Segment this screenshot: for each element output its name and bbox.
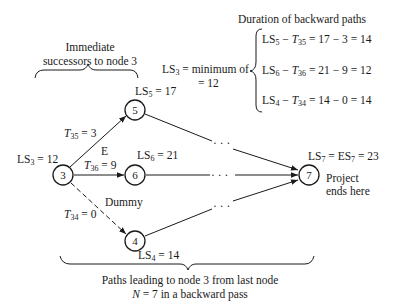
backward-path-6: LS6 − T36 = 21 − 9 = 12 — [262, 65, 372, 78]
edge-3-5-duration: T35 = 3 — [64, 128, 96, 141]
project-end-line2: ends here — [326, 186, 370, 198]
edge-3-4-activity: Dummy — [105, 197, 143, 209]
node-5-id: 5 — [125, 100, 145, 120]
ls3-minimum-formula: LS3 = minimum of — [162, 64, 249, 77]
edge-3-5-activity: E — [101, 146, 108, 158]
backward-path-4: LS4 − T34 = 14 − 0 = 14 — [262, 95, 372, 108]
successors-title-line2: successors to node 3 — [30, 56, 150, 68]
edge-3-6-duration: T36 = 9 — [84, 160, 116, 173]
node-4-ls-label: LS4 = 14 — [138, 250, 179, 263]
edge-3-4-duration: T34 = 0 — [64, 209, 96, 222]
ellipsis-bottom: · · · — [213, 201, 230, 213]
ls3-minimum-result: = 12 — [198, 78, 219, 90]
backward-paths-brace — [250, 29, 262, 112]
bottom-brace — [60, 256, 314, 270]
project-end-line1: Project — [326, 173, 359, 185]
backward-paths-title: Duration of backward paths — [238, 14, 366, 26]
node-6-id: 6 — [125, 165, 145, 185]
node-5-ls-label: LS5 = 17 — [135, 86, 176, 99]
node-6-ls-label: LS6 = 21 — [137, 150, 178, 163]
node-7-ls-label: LS7 = ES7 = 23 — [308, 151, 379, 164]
ellipsis-top: · · · — [213, 138, 230, 150]
ellipsis-middle: · · · — [211, 170, 228, 182]
node-7-id: 7 — [299, 165, 319, 185]
node-3-ls-label: LS3 = 12 — [17, 154, 58, 167]
bottom-caption-line2: N = 7 in a backward pass — [80, 289, 300, 301]
node-4-id: 4 — [125, 231, 145, 251]
backward-path-5: LS5 − T35 = 17 − 3 = 14 — [262, 34, 372, 47]
bottom-caption-line1: Paths leading to node 3 from last node — [80, 275, 300, 287]
node-3-id: 3 — [53, 165, 73, 185]
successors-title-line1: Immediate — [40, 42, 140, 54]
